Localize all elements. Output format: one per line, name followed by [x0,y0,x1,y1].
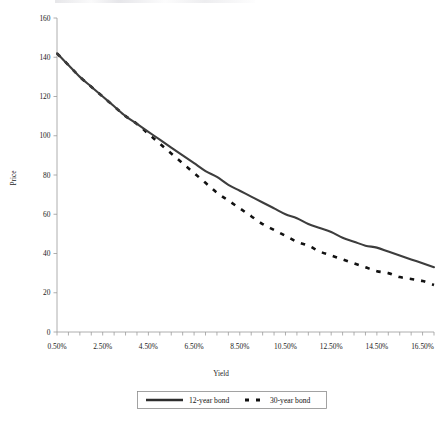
y-tick-label: 80 [43,171,51,180]
y-tick-label: 160 [39,14,50,23]
x-tick-labels: 0.50%2.50%4.50%6.50%8.50%10.50%12.50%14.… [47,342,434,351]
x-tick-label: 8.50% [230,342,249,351]
y-tick-label: 40 [43,249,51,258]
bond-price-yield-chart: 020406080100120140160 Price 0.50%2.50%4.… [0,0,441,425]
x-tick-label: 10.50% [274,342,297,351]
y-tick-label: 100 [39,131,50,140]
y-tick-label: 0 [47,328,51,337]
y-tick-label: 20 [43,288,51,297]
x-tick-label: 4.50% [139,342,158,351]
y-tick-marks [54,18,58,332]
x-tick-label: 6.50% [185,342,204,351]
y-tick-label: 120 [39,92,50,101]
x-tick-label: 12.50% [320,342,343,351]
x-axis-group: 0.50%2.50%4.50%6.50%8.50%10.50%12.50%14.… [47,332,434,378]
y-tick-label: 60 [43,210,51,219]
x-tick-label: 16.50% [411,342,434,351]
legend-label-12-year-bond: 12-year bond [189,396,229,405]
series-line-30-year-bond [57,53,434,285]
legend: 12-year bond 30-year bond [138,392,327,409]
x-tick-marks [57,332,434,336]
x-tick-label: 0.50% [47,342,66,351]
x-axis-title: Yield [213,370,229,378]
series-group [57,53,434,285]
x-tick-label: 14.50% [365,342,388,351]
y-axis-title: Price [10,171,18,186]
y-tick-labels: 020406080100120140160 [39,14,50,337]
y-axis-group: 020406080100120140160 Price [10,14,57,337]
x-tick-label: 2.50% [93,342,112,351]
series-line-12-year-bond [57,53,434,267]
chart-canvas: 020406080100120140160 Price 0.50%2.50%4.… [0,0,441,425]
y-tick-label: 140 [39,53,50,62]
legend-label-30-year-bond: 30-year bond [270,396,310,405]
